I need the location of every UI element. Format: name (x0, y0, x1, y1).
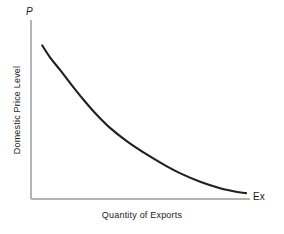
data-series-group (42, 45, 246, 193)
x-axis-title: Quantity of Exports (0, 211, 284, 220)
y-axis-title: Domestic Price Level (13, 40, 22, 180)
y-axis-symbol-label: P (26, 7, 33, 17)
export-supply-chart: P Ex Quantity of Exports Domestic Price … (0, 0, 284, 234)
chart-canvas (0, 0, 284, 234)
axes-group (31, 20, 250, 199)
export-supply-curve (42, 45, 246, 193)
x-axis-symbol-label: Ex (253, 192, 265, 202)
